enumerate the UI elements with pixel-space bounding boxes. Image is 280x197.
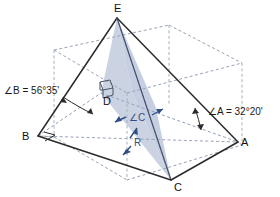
- box-edge-top-front-right: [127, 63, 242, 93]
- annotation-angle-a: ∠A = 32°20': [208, 107, 263, 117]
- pyramid-in-box-diagram: [0, 0, 280, 197]
- annotation-angle-c: ∠C: [129, 113, 145, 123]
- annotation-angle-b: ∠B = 56°35': [4, 86, 59, 96]
- vertex-label-e: E: [114, 3, 121, 14]
- vertex-label-a: A: [241, 137, 248, 148]
- vertex-label-d: D: [103, 96, 111, 107]
- interior-dashed-b-to-d: [38, 93, 101, 136]
- box-edge-top-back-right: [169, 25, 242, 63]
- box-edge-bottom-back-left: [54, 137, 127, 180]
- annotation-segment-r: R: [134, 138, 141, 148]
- angle-arc-b: [60, 97, 93, 114]
- edge-c-to-a: [171, 142, 238, 180]
- geometry-figure-canvas: E B A C D ∠B = 56°35' ∠A = 32°20' ∠C R: [0, 0, 280, 197]
- vertex-label-c: C: [174, 182, 182, 193]
- vertex-label-b: B: [22, 131, 29, 142]
